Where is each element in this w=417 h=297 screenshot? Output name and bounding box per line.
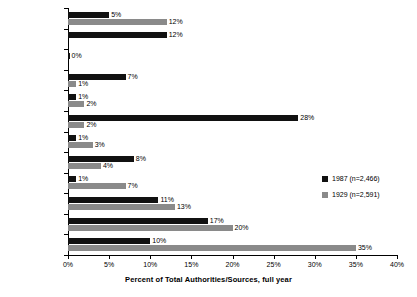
- bar-value-label: 1%: [76, 175, 88, 183]
- x-tick: [397, 255, 398, 259]
- x-tick: [274, 255, 275, 259]
- legend-label-1929: 1929 (n=2,591): [332, 190, 380, 199]
- y-tick: [64, 255, 68, 256]
- bar-1987: [68, 135, 76, 141]
- x-tick: [150, 255, 151, 259]
- x-tick: [315, 255, 316, 259]
- chart-row: N/A5%12%: [68, 8, 397, 29]
- plot-area: N/A5%12%DJIA12%Non-profit0%Foreign7%1%Lo…: [68, 8, 397, 254]
- chart-row: Local1%2%: [68, 90, 397, 111]
- x-axis-title: Percent of Total Authorities/Sources, fu…: [0, 275, 417, 285]
- chart-row: DJIA12%: [68, 29, 397, 50]
- x-tick: [233, 255, 234, 259]
- bar-chart: 0%5%10%15%20%25%30%35%40% N/A5%12%DJIA12…: [0, 0, 417, 297]
- x-tick-label: 30%: [308, 260, 322, 269]
- bar-1929: [68, 183, 126, 189]
- x-tick-label: 35%: [349, 260, 363, 269]
- bar-1929: [68, 81, 76, 87]
- bar-1929: [68, 204, 175, 210]
- legend-item[interactable]: 1929 (n=2,591): [322, 190, 380, 199]
- x-tick: [109, 255, 110, 259]
- bar-1929: [68, 225, 233, 231]
- bar-value-label: 12%: [167, 18, 183, 26]
- x-tick-label: 40%: [390, 260, 404, 269]
- bar-value-label: 3%: [93, 141, 105, 149]
- bar-value-label: 7%: [126, 73, 138, 81]
- bar-value-label: 5%: [109, 11, 121, 19]
- bar-1929: [68, 19, 167, 25]
- legend-label-1987: 1987 (n=2,466): [332, 174, 380, 183]
- bar-value-label: 20%: [233, 224, 249, 232]
- x-tick: [356, 255, 357, 259]
- chart-row: Foreign7%1%: [68, 70, 397, 91]
- bar-1987: [68, 197, 158, 203]
- bar-1987: [68, 94, 76, 100]
- chart-row: Expert28%2%: [68, 111, 397, 132]
- legend-item[interactable]: 1987 (n=2,466): [322, 174, 380, 183]
- bar-value-label: 13%: [175, 203, 191, 211]
- bar-value-label: 17%: [208, 217, 224, 225]
- bar-1929: [68, 101, 84, 107]
- bar-1987: [68, 12, 109, 18]
- bar-1987: [68, 115, 298, 121]
- bar-1987: [68, 32, 167, 38]
- chart-row: Business17%20%: [68, 214, 397, 235]
- chart-row: Non-profit0%: [68, 49, 397, 70]
- x-tick-label: 5%: [104, 260, 114, 269]
- legend-swatch-1987-icon: [322, 176, 328, 182]
- legend-swatch-1929-icon: [322, 192, 328, 198]
- bar-1987: [68, 176, 76, 182]
- bar-1929: [68, 142, 93, 148]
- x-tick-label: 25%: [267, 260, 281, 269]
- bar-value-label: 1%: [76, 134, 88, 142]
- x-tick-label: 15%: [184, 260, 198, 269]
- x-tick-label: 20%: [225, 260, 239, 269]
- x-tick-label: 10%: [143, 260, 157, 269]
- bar-value-label: 7%: [126, 182, 138, 190]
- x-tick-label: 0%: [63, 260, 73, 269]
- bar-1987: [68, 238, 150, 244]
- chart-row: Congress10%35%: [68, 234, 397, 255]
- bar-1929: [68, 163, 101, 169]
- bar-1929: [68, 122, 84, 128]
- bar-value-label: 2%: [84, 100, 96, 108]
- bar-value-label: 10%: [150, 237, 166, 245]
- bar-value-label: 2%: [84, 121, 96, 129]
- bar-1929: [68, 245, 356, 251]
- bar-value-label: 8%: [134, 155, 146, 163]
- x-tick: [191, 255, 192, 259]
- bar-value-label: 1%: [76, 80, 88, 88]
- bar-value-label: 28%: [298, 114, 314, 122]
- bar-value-label: 4%: [101, 162, 113, 170]
- bar-value-label: 35%: [356, 244, 372, 252]
- x-tick: [68, 255, 69, 259]
- bar-1987: [68, 218, 208, 224]
- bar-value-label: 0%: [70, 52, 82, 60]
- chart-legend: 1987 (n=2,466) 1929 (n=2,591): [322, 174, 380, 206]
- chart-row: Reviews1%3%: [68, 132, 397, 153]
- bar-value-label: 12%: [167, 31, 183, 39]
- chart-row: President8%4%: [68, 152, 397, 173]
- bar-value-label: 11%: [158, 196, 174, 204]
